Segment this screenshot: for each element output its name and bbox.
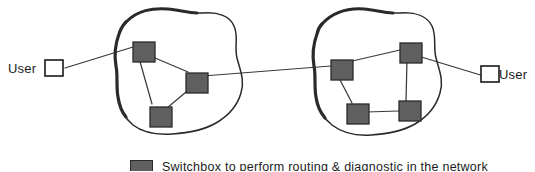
network-diagram-figure: User User Switchbox to perform routing &… xyxy=(0,0,535,171)
link-n5-to-n7 xyxy=(406,60,407,101)
user-endpoint-square-right[interactable] xyxy=(481,66,499,82)
switchbox-node[interactable] xyxy=(133,42,155,62)
switchbox-node[interactable] xyxy=(347,104,369,124)
left-cloud-thick-edge-top xyxy=(126,9,197,22)
link-n5-to-user-right xyxy=(418,56,487,77)
link-n2-to-n4 xyxy=(203,66,331,76)
switchbox-node[interactable] xyxy=(331,60,353,80)
link-n4-to-n5 xyxy=(348,50,400,62)
left-cloud-thick-edge xyxy=(115,22,126,117)
left-cloud-outline xyxy=(115,9,242,134)
switchbox-node[interactable] xyxy=(399,101,421,121)
switchbox-node[interactable] xyxy=(186,73,208,93)
legend-switchbox-swatch xyxy=(130,160,153,171)
user-label-right: User xyxy=(499,67,527,82)
link-n6-to-n7 xyxy=(366,111,399,112)
switchbox-node[interactable] xyxy=(150,107,172,127)
right-cloud-thick-edge-top xyxy=(322,9,393,24)
link-layer xyxy=(65,47,487,112)
switchbox-node[interactable] xyxy=(400,43,422,63)
legend: Switchbox to perform routing & diagnosti… xyxy=(130,160,488,171)
left-network-cloud xyxy=(115,9,242,134)
user-label-left: User xyxy=(8,61,36,76)
link-user-left-to-n1 xyxy=(65,47,133,68)
user-endpoint-square-left[interactable] xyxy=(45,60,63,76)
right-cloud-thick-edge xyxy=(313,24,325,118)
link-n1-to-n3 xyxy=(139,58,152,104)
legend-label: Switchbox to perform routing & diagnosti… xyxy=(162,161,488,172)
diagram-canvas xyxy=(0,0,535,171)
